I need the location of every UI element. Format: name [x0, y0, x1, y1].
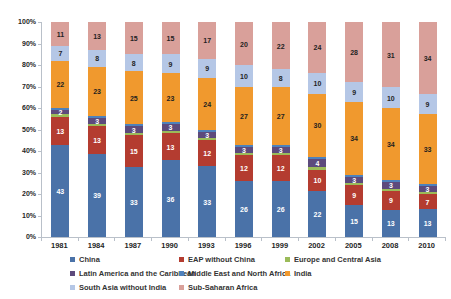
legend-swatch-icon	[179, 271, 184, 276]
bar-segment: 24	[198, 78, 216, 130]
data-label: 12	[272, 165, 290, 172]
x-tick-label: 1987	[114, 241, 151, 250]
y-tick-mark	[38, 216, 41, 217]
bar-segment: 24	[308, 22, 326, 73]
data-label: 31	[382, 51, 400, 58]
bar-2005: 159334928	[345, 22, 363, 237]
legend-item: Middle East and North Africa	[179, 268, 285, 279]
bar-segment: 30	[308, 94, 326, 157]
y-tick-label: 70%	[0, 83, 36, 91]
legend-item: China	[70, 254, 179, 265]
data-label: 7	[419, 198, 437, 205]
bar-segment: 2	[51, 110, 69, 114]
bar-segment: 34	[345, 102, 363, 175]
legend-item: Sub-Saharan Africa	[179, 282, 285, 293]
y-tick-label: 20%	[0, 190, 36, 198]
data-label: 13	[51, 127, 69, 134]
bar-segment: 34	[382, 108, 400, 180]
legend-swatch-icon	[285, 257, 290, 262]
y-tick-mark	[38, 194, 41, 195]
bar-segment: 43	[51, 145, 69, 237]
y-tick-mark	[38, 22, 41, 23]
bar-segment: 15	[162, 22, 180, 54]
y-tick-mark	[38, 130, 41, 131]
bar-segment: 33	[198, 166, 216, 237]
bar-segment: 28	[345, 22, 363, 82]
legend-label: South Asia without India	[79, 283, 166, 292]
bar-segment: 9	[345, 185, 363, 204]
y-tick-label: 50%	[0, 126, 36, 134]
data-label: 13	[88, 137, 106, 144]
legend: ChinaEAP without ChinaEurope and Central…	[70, 254, 445, 293]
bar-segment	[345, 183, 363, 185]
legend-swatch-icon	[179, 285, 184, 290]
bar-segment: 10	[308, 73, 326, 94]
bar-segment: 7	[51, 46, 69, 61]
bar-segment: 17	[198, 22, 216, 59]
bar-segment: 3	[235, 147, 253, 153]
bar-segment: 23	[88, 67, 106, 116]
data-label: 9	[345, 192, 363, 199]
bar-segment	[198, 138, 216, 140]
bar-segment: 26	[272, 181, 290, 237]
data-label: 10	[308, 80, 326, 87]
bar-segment: 9	[162, 54, 180, 73]
bar-2010: 137333934	[419, 22, 437, 237]
data-label: 33	[198, 198, 216, 205]
bar-segment: 22	[51, 61, 69, 108]
data-label: 22	[272, 42, 290, 49]
bar-segment	[345, 175, 363, 177]
data-label: 3	[235, 146, 253, 153]
data-label: 8	[88, 55, 106, 62]
bar-segment	[235, 145, 253, 147]
bar-segment: 15	[125, 22, 143, 54]
stacked-bar-chart: 0%10%20%30%40%50%60%70%80%90%100% 431322…	[0, 0, 451, 299]
x-tick-label: 1993	[188, 241, 225, 250]
data-label: 24	[308, 44, 326, 51]
x-tick-label: 2002	[298, 241, 335, 250]
data-label: 34	[382, 141, 400, 148]
data-label: 15	[125, 147, 143, 154]
bar-segment: 9	[198, 59, 216, 78]
bar-segment: 12	[198, 140, 216, 166]
data-label: 15	[345, 217, 363, 224]
bar-segment	[382, 180, 400, 182]
x-tick-label: 1981	[41, 241, 78, 250]
data-label: 36	[162, 195, 180, 202]
bar-segment	[51, 108, 69, 110]
data-label: 13	[382, 220, 400, 227]
bar-segment: 39	[88, 154, 106, 237]
legend-item: Europe and Central Asia	[285, 254, 445, 265]
bar-segment	[162, 131, 180, 133]
bar-segment	[382, 189, 400, 191]
bar-segment	[419, 192, 437, 194]
legend-swatch-icon	[285, 271, 290, 276]
data-label: 9	[162, 60, 180, 67]
data-label: 9	[345, 88, 363, 95]
bar-segment: 36	[162, 160, 180, 237]
bar-segment	[272, 145, 290, 147]
legend-swatch-icon	[70, 257, 75, 262]
bar-segment: 15	[345, 205, 363, 237]
legend-label: Sub-Saharan Africa	[188, 283, 257, 292]
bar-segment: 13	[382, 210, 400, 237]
bar-segment: 13	[51, 117, 69, 145]
bar-1990: 3613323915	[162, 22, 180, 237]
bar-segment: 13	[88, 22, 106, 50]
y-tick-mark	[38, 173, 41, 174]
data-label: 22	[51, 81, 69, 88]
bar-segment: 13	[162, 133, 180, 161]
bar-segment	[308, 157, 326, 159]
data-label: 10	[308, 177, 326, 184]
bar-segment: 33	[125, 167, 143, 237]
y-tick-mark	[38, 237, 41, 238]
data-label: 33	[125, 198, 143, 205]
data-label: 3	[272, 146, 290, 153]
x-tick-label: 2008	[372, 241, 409, 250]
y-tick-mark	[38, 44, 41, 45]
bar-segment	[88, 116, 106, 118]
data-label: 3	[162, 124, 180, 131]
bar-segment: 9	[345, 82, 363, 101]
bar-segment: 3	[162, 124, 180, 130]
bar-segment: 26	[235, 181, 253, 237]
